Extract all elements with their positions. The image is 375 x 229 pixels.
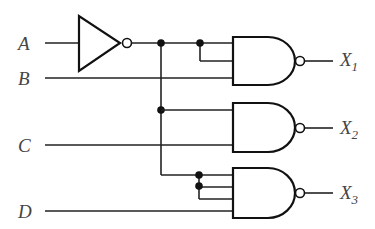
nand-gate-2: [233, 103, 305, 152]
junction-dot: [195, 182, 203, 190]
nand-gate-1: [233, 37, 305, 85]
input-label-b: B: [18, 68, 30, 89]
junction-dot: [195, 171, 203, 179]
input-label-c: C: [18, 135, 31, 156]
not-gate: [79, 16, 132, 71]
nand-gate-3: [233, 168, 305, 218]
logic-circuit-diagram: A B C D X1 X2 X3: [0, 0, 375, 229]
junction-dot: [196, 39, 204, 47]
junction-dot: [157, 39, 165, 47]
output-label-x2: X2: [339, 117, 359, 142]
output-label-x3: X3: [339, 182, 359, 207]
output-label-x1: X1: [339, 49, 358, 74]
input-label-a: A: [16, 33, 30, 54]
input-label-d: D: [17, 201, 32, 222]
inverter-bubble: [123, 39, 132, 48]
